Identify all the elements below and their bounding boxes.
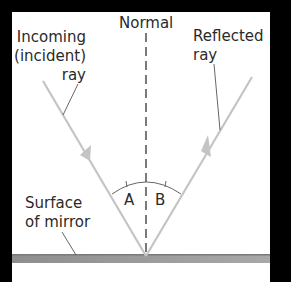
reflected-arrow-icon [201,135,211,157]
mirror-surface-label: Surface of mirror [25,194,90,232]
angle-a-label: A [124,192,134,208]
mirror-leader-line [62,232,76,255]
normal-label: Normal [119,14,173,33]
angle-b-label: B [155,192,165,208]
reflected-label-line-2: ray [193,46,264,65]
incident-label-line-2: (incident) [14,47,86,66]
reflected-label-line-1: Reflected [193,27,264,46]
incident-leader-line [63,84,78,115]
incident-label-line-3: ray [14,66,86,85]
reflected-leader-line [214,64,220,130]
reflected-ray-label: Reflected ray [193,27,264,65]
incident-ray-label: Incoming (incident) ray [14,28,86,85]
mirror-label-line-1: Surface [25,194,90,213]
mirror-highlight [12,254,270,256]
incident-label-line-1: Incoming [14,28,86,47]
mirror-label-line-2: of mirror [25,213,90,232]
reflected-ray [146,77,252,256]
